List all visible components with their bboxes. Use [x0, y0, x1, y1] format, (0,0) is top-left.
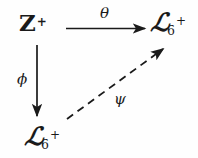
node-top-right-subscript: 6 — [167, 23, 175, 38]
node-top-right-base: ℒ — [149, 10, 169, 35]
node-top-right-superscript: + — [176, 14, 186, 28]
commutative-diagram: Z+ ℒ6+ ℒ6+ θ ϕ ψ — [0, 0, 198, 158]
node-bottom-left-superscript: + — [50, 128, 60, 142]
psi-arrow-line — [67, 49, 163, 119]
node-top-left-superscript: + — [37, 15, 47, 29]
node-bottom-left-base: ℒ — [23, 124, 43, 149]
theta-label: θ — [100, 6, 109, 21]
psi-label: ψ — [114, 92, 126, 107]
node-top-left: Z+ — [19, 11, 47, 34]
node-top-left-base: Z — [19, 9, 36, 36]
phi-label: ϕ — [17, 72, 27, 87]
node-bottom-left-subscript: 6 — [41, 137, 49, 152]
node-top-right: ℒ6+ — [151, 10, 186, 37]
node-bottom-left: ℒ6+ — [25, 124, 60, 151]
